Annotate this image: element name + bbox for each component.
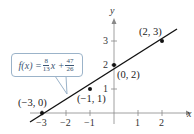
data-point [160,39,164,43]
point-label: (−3, 0) [18,97,47,109]
y-tick-label: 2 [103,59,108,70]
data-point [40,111,44,115]
x-tick-label: −3 [36,117,47,128]
x-tick-label: −1 [84,117,95,128]
data-point [112,63,116,67]
y-axis-label: y [109,5,115,16]
point-label: (2, 3) [139,26,162,38]
y-axis-arrow-icon [112,18,117,24]
fraction-slope: 8 13 [43,58,50,73]
point-label: (0, 2) [117,69,140,81]
x-tick-label: 2 [159,117,164,128]
data-point [88,87,92,91]
point-label: (−1, 1) [77,93,106,105]
x-tick-label: 1 [135,117,140,128]
y-tick-label: 3 [103,35,108,46]
equation-callout: f(x) = 8 13 x + 47 26 [11,53,83,77]
equation-lhs: f(x) = [19,60,42,71]
x-tick-label: −2 [60,117,71,128]
slope-denominator: 13 [43,66,50,73]
fraction-intercept: 47 26 [65,58,74,73]
x-axis-label: x [186,108,192,119]
equation-variable: x + [51,60,65,71]
intercept-denominator: 26 [66,66,73,73]
callout-pointer [55,76,67,94]
